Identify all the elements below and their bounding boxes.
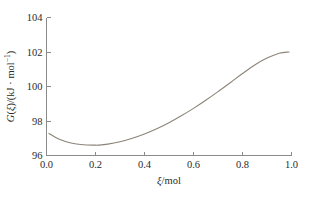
chart-background: [0, 0, 314, 201]
x-tick-label: 0.2: [89, 159, 102, 170]
chart-plot-area: 9698100102104 0.00.20.40.60.81.0 ξ/mol G…: [0, 0, 314, 201]
x-axis-title: ξ/mol: [157, 175, 181, 187]
x-tick-label: 0.8: [236, 159, 249, 170]
x-tick-label: 1.0: [285, 159, 298, 170]
y-tick-label: 100: [27, 81, 43, 92]
x-tick-label: 0.0: [40, 159, 53, 170]
y-tick-label: 102: [27, 47, 43, 58]
x-tick-label: 0.6: [187, 159, 200, 170]
y-tick-label: 104: [27, 12, 44, 23]
x-tick-label: 0.4: [138, 159, 152, 170]
chart-figure: 9698100102104 0.00.20.40.60.81.0 ξ/mol G…: [0, 0, 314, 201]
y-tick-label: 98: [32, 116, 43, 127]
